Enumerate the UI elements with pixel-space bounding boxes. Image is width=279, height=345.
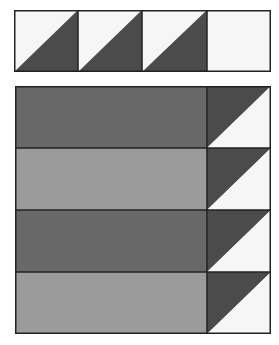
strip-row-4 bbox=[15, 272, 271, 334]
top-strip-graphic bbox=[14, 10, 271, 72]
hst-unit-2 bbox=[78, 10, 142, 72]
top-strip bbox=[14, 10, 271, 72]
hst-unit-3 bbox=[142, 10, 207, 72]
hst-unit-1 bbox=[14, 10, 78, 72]
main-block-graphic bbox=[15, 86, 271, 334]
strip-row-1 bbox=[15, 86, 271, 148]
plain-square-unit bbox=[207, 10, 271, 72]
main-block bbox=[15, 86, 271, 334]
strip-row-3 bbox=[15, 210, 271, 272]
strip-row-2 bbox=[15, 148, 271, 210]
